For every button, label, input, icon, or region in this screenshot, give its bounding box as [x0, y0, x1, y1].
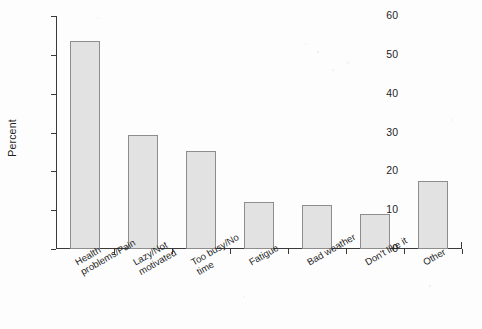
y-tick-label: 50	[358, 48, 398, 60]
x-tick-mark	[462, 249, 463, 254]
y-tick-mark	[51, 55, 56, 56]
y-tick-mark	[51, 249, 56, 250]
x-tick-mark	[346, 249, 347, 254]
y-tick-mark	[51, 133, 56, 134]
x-axis-end-tick	[461, 242, 462, 249]
y-axis-title: Percent	[6, 88, 18, 188]
x-tick-mark	[288, 249, 289, 254]
bar	[186, 151, 216, 249]
y-tick-mark	[51, 171, 56, 172]
y-tick-label: 10	[358, 203, 398, 215]
y-tick-label: 40	[358, 87, 398, 99]
bar	[70, 41, 100, 249]
y-tick-mark	[51, 94, 56, 95]
y-tick-label: 60	[358, 9, 398, 21]
x-category-label: Other	[421, 246, 447, 268]
bar	[244, 202, 274, 249]
x-tick-mark	[404, 249, 405, 254]
y-tick-mark	[51, 16, 56, 17]
bar	[302, 205, 332, 249]
plot-area: 0102030405060 Health problems/PainLazy/N…	[56, 16, 462, 249]
y-tick-mark	[51, 210, 56, 211]
bar	[418, 181, 448, 249]
y-axis-line	[56, 16, 57, 249]
y-tick-label: 30	[358, 126, 398, 138]
y-tick-label: 20	[358, 164, 398, 176]
bar-chart-figure: Percent 0102030405060 Health problems/Pa…	[0, 0, 482, 329]
bar	[128, 135, 158, 249]
